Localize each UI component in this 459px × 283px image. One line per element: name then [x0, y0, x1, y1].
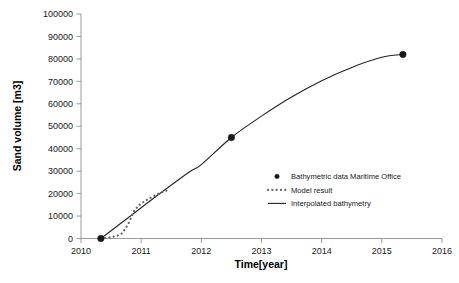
y-tick-label: 60000: [48, 99, 73, 109]
x-tick-label: 2015: [372, 246, 392, 256]
y-tick-label: 40000: [48, 144, 73, 154]
data-point-marker: [400, 51, 406, 57]
y-tick-label: 30000: [48, 166, 73, 176]
legend-item-label: Model result: [291, 186, 333, 195]
y-axis-title: Sand volume [m3]: [11, 81, 23, 171]
y-axis-ticks: [77, 14, 82, 239]
y-tick-label: 70000: [48, 77, 73, 87]
x-axis-ticks: [81, 239, 442, 244]
x-tick-label: 2010: [71, 246, 91, 256]
x-tick-label: 2012: [191, 246, 211, 256]
data-point-marker: [98, 235, 104, 241]
series-interpolated-bathymetry: [101, 54, 403, 238]
y-tick-label: 10000: [48, 211, 73, 221]
legend-item-label: Bathymetric data Maritime Office: [291, 172, 401, 181]
y-tick-label: 100000: [43, 9, 73, 19]
x-tick-label: 2011: [131, 246, 150, 256]
y-tick-label: 50000: [48, 121, 73, 131]
x-tick-label: 2014: [312, 246, 332, 256]
x-tick-label: 2013: [251, 246, 271, 256]
y-tick-label: 0: [68, 234, 73, 244]
y-axis-tick-labels: 0100002000030000400005000060000700008000…: [43, 9, 73, 244]
y-tick-label: 20000: [48, 189, 73, 199]
x-axis-title: Time[year]: [235, 258, 288, 270]
legend-item-label: Interpolated bathymetry: [291, 199, 371, 208]
legend-dot-icon: [275, 174, 279, 178]
sand-volume-chart: 0100002000030000400005000060000700008000…: [0, 0, 459, 283]
x-axis-tick-labels: 2010201120122013201420152016: [71, 246, 452, 256]
y-tick-label: 90000: [48, 32, 73, 42]
x-tick-label: 2016: [432, 246, 452, 256]
y-tick-label: 80000: [48, 54, 73, 64]
chart-page: 0100002000030000400005000060000700008000…: [0, 0, 459, 283]
chart-legend: Bathymetric data Maritime OfficeModel re…: [268, 172, 401, 208]
data-point-marker: [228, 134, 234, 140]
series-bathymetric-data-markers: [98, 51, 406, 241]
